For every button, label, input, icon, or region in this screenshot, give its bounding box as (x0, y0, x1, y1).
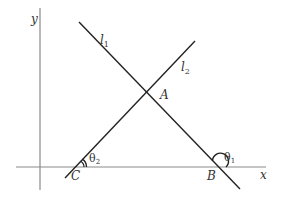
angle-arc-theta2-inner (81, 161, 84, 167)
line-l2 (65, 41, 195, 178)
angle-theta2-label: θ2 (89, 152, 100, 166)
line-l2-label: l2 (181, 60, 190, 76)
y-axis-label: y (30, 12, 38, 26)
geometry-diagram: y x l1 l2 A B C θ1 θ2 (0, 0, 282, 200)
angle-theta1-label: θ1 (224, 151, 235, 165)
point-b-label: B (206, 169, 216, 183)
point-c-label: C (71, 169, 80, 183)
x-axis-label: x (260, 168, 267, 182)
line-l1-label: l1 (100, 33, 109, 49)
point-a-label: A (159, 88, 169, 102)
